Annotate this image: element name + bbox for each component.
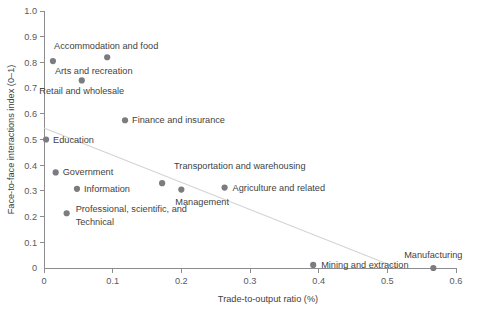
data-point-marker xyxy=(310,262,316,268)
data-point-marker xyxy=(178,187,184,193)
x-tick-label: 0 xyxy=(41,276,46,286)
data-point-label: Technical xyxy=(76,217,114,227)
y-tick-label: 0.2 xyxy=(24,212,37,222)
x-tick-label: 0.6 xyxy=(450,276,463,286)
y-tick-label: 0.8 xyxy=(24,58,37,68)
x-tick-label: 0.2 xyxy=(175,276,188,286)
y-tick-label: 0.3 xyxy=(24,186,37,196)
data-point-label: Education xyxy=(53,135,94,145)
data-point-marker xyxy=(104,54,110,60)
data-point-label: Arts and recreation xyxy=(55,66,133,76)
y-tick-label: 0 xyxy=(32,263,37,273)
y-tick-label: 0.7 xyxy=(24,83,37,93)
data-point-marker xyxy=(50,58,56,64)
y-tick-label: 0.5 xyxy=(24,135,37,145)
data-point-marker xyxy=(159,180,165,186)
data-point-marker xyxy=(430,265,436,271)
data-point-label: Finance and insurance xyxy=(132,115,225,125)
data-point-label: Manufacturing xyxy=(404,250,462,260)
y-tick-label: 0.9 xyxy=(24,32,37,42)
y-tick-label: 0.4 xyxy=(24,161,37,171)
x-tick-label: 0.1 xyxy=(106,276,119,286)
y-tick-label: 1.0 xyxy=(24,6,37,16)
chart-canvas: 00.10.20.30.40.50.60.70.80.91.000.10.20.… xyxy=(0,0,482,314)
data-point-label: Professional, scientific, and xyxy=(76,204,187,214)
data-point-label: Agriculture and related xyxy=(233,183,325,193)
x-tick-label: 0.3 xyxy=(244,276,257,286)
data-point-marker xyxy=(79,77,85,83)
data-point-label: Government xyxy=(63,167,114,177)
y-tick-label: 0.6 xyxy=(24,109,37,119)
data-point-marker xyxy=(221,184,227,190)
data-point-label: Information xyxy=(84,184,130,194)
y-tick-label: 0.1 xyxy=(24,238,37,248)
data-point-marker xyxy=(53,169,59,175)
data-point-marker xyxy=(74,186,80,192)
data-point-marker xyxy=(43,136,49,142)
data-point-label: Management xyxy=(175,197,229,207)
data-point-marker xyxy=(64,210,70,216)
data-point-label: Accommodation and food xyxy=(54,41,158,51)
data-point-marker xyxy=(122,117,128,123)
y-axis-title: Face-to-face interactions index (0–1) xyxy=(6,65,16,215)
x-axis-title: Trade-to-output ratio (%) xyxy=(218,294,318,304)
x-tick-label: 0.4 xyxy=(312,276,325,286)
data-point-label: Mining and extraction xyxy=(321,260,408,270)
data-point-label: Transportation and warehousing xyxy=(174,161,305,171)
data-point-label: Retail and wholesale xyxy=(39,86,124,96)
scatter-chart: 00.10.20.30.40.50.60.70.80.91.000.10.20.… xyxy=(0,0,482,314)
point-labels: Arts and recreationAccommodation and foo… xyxy=(39,41,462,270)
x-tick-label: 0.5 xyxy=(381,276,394,286)
